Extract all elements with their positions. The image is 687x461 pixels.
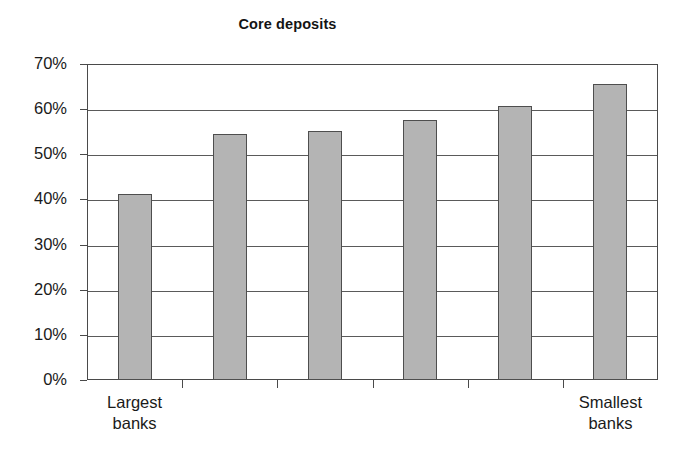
- x-tick-mark: [373, 380, 374, 388]
- gridline: [88, 155, 657, 156]
- bar: [118, 194, 152, 380]
- y-tick-label: 20%: [0, 281, 67, 297]
- y-tick-mark: [80, 380, 87, 381]
- chart-title: Core deposits: [0, 16, 575, 32]
- x-category-label: Smallestbanks: [530, 392, 687, 434]
- y-tick-label: 60%: [0, 100, 67, 116]
- gridline: [88, 110, 657, 111]
- gridline: [88, 246, 657, 247]
- y-tick-label: 50%: [0, 145, 67, 161]
- y-tick-label: 70%: [0, 55, 67, 71]
- bar: [213, 134, 247, 380]
- bar: [403, 120, 437, 380]
- y-tick-label: 30%: [0, 236, 67, 252]
- x-tick-mark: [182, 380, 183, 388]
- x-category-label-line2: banks: [530, 413, 687, 434]
- x-category-label-line1: Smallest: [530, 392, 687, 413]
- y-tick-mark: [80, 154, 87, 155]
- bar: [593, 84, 627, 380]
- x-tick-mark: [563, 380, 564, 388]
- x-category-label-line2: banks: [55, 413, 215, 434]
- x-category-label: Largestbanks: [55, 392, 215, 434]
- x-tick-mark: [277, 380, 278, 388]
- y-tick-mark: [80, 64, 87, 65]
- bar: [308, 131, 342, 380]
- gridline: [88, 336, 657, 337]
- bar-chart: Core deposits 70%60%50%40%30%20%10%0% La…: [0, 0, 687, 461]
- y-tick-mark: [80, 245, 87, 246]
- plot-area: [87, 64, 658, 380]
- gridline: [88, 291, 657, 292]
- y-tick-mark: [80, 199, 87, 200]
- x-tick-mark: [468, 380, 469, 388]
- y-tick-mark: [80, 290, 87, 291]
- x-axis: [87, 380, 658, 390]
- gridline: [88, 200, 657, 201]
- y-tick-label: 40%: [0, 190, 67, 206]
- x-category-label-line1: Largest: [55, 392, 215, 413]
- y-tick-label: 10%: [0, 326, 67, 342]
- y-tick-label: 0%: [0, 371, 67, 387]
- y-tick-mark: [80, 109, 87, 110]
- bar: [498, 106, 532, 380]
- y-tick-mark: [80, 335, 87, 336]
